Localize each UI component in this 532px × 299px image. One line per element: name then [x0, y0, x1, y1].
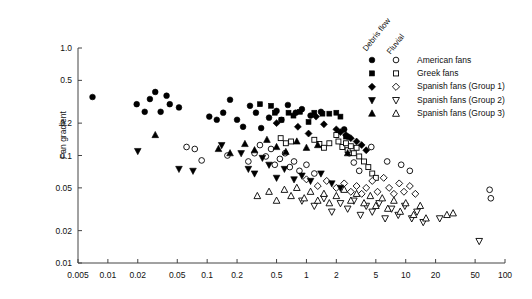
data-point — [326, 200, 333, 206]
data-point — [369, 57, 375, 63]
data-point — [333, 192, 340, 198]
data-point — [245, 166, 252, 172]
data-point — [392, 83, 399, 90]
data-point — [184, 144, 190, 150]
data-point — [348, 144, 353, 149]
axis-lines — [78, 48, 505, 263]
y-axis-title: Fan gradient — [58, 90, 68, 180]
data-point — [369, 98, 376, 104]
axis-ticks — [78, 48, 505, 263]
data-point — [368, 144, 374, 150]
data-point — [356, 168, 362, 174]
legend-item-label[interactable]: Spanish fans (Group 2) — [417, 95, 505, 105]
legend-marker-fluvial-3 — [393, 98, 400, 104]
data-point — [291, 159, 297, 165]
data-point — [305, 130, 312, 137]
legend-item-label[interactable]: Spanish fans (Group 3) — [417, 108, 505, 118]
data-point — [266, 115, 272, 121]
data-point — [314, 183, 321, 190]
data-point — [357, 212, 364, 218]
series-spanish-fans-group-1--fluvial — [303, 174, 419, 197]
data-point — [393, 71, 398, 76]
data-point — [272, 110, 277, 115]
data-point — [164, 93, 170, 99]
data-point — [363, 184, 370, 191]
data-point — [320, 121, 327, 128]
data-point — [311, 203, 318, 209]
data-point — [368, 83, 375, 90]
data-point — [258, 125, 264, 131]
legend-item-label[interactable]: American fans — [417, 55, 471, 65]
data-point — [344, 206, 351, 212]
data-point — [279, 117, 284, 122]
data-point — [190, 168, 197, 174]
data-point — [234, 117, 240, 123]
data-point — [396, 180, 403, 187]
data-point — [142, 109, 148, 115]
x-tick-label: 2 — [334, 270, 339, 280]
data-point — [407, 168, 413, 174]
x-tick-label: 0.05 — [169, 270, 186, 280]
data-point — [240, 124, 246, 130]
data-point — [444, 211, 451, 217]
data-point — [253, 110, 259, 116]
y-tick-label: 0.01 — [36, 258, 72, 268]
legend-marker-fluvial-2 — [392, 83, 399, 90]
data-point — [167, 101, 173, 107]
x-tick-label: 1 — [304, 270, 309, 280]
data-point — [176, 105, 182, 111]
data-point — [147, 96, 153, 102]
x-tick-label: 20 — [431, 270, 440, 280]
data-point — [328, 209, 335, 215]
legend-item-label[interactable]: Greek fans — [417, 68, 459, 78]
data-point — [320, 111, 325, 116]
data-point — [369, 209, 376, 215]
data-point — [343, 141, 348, 146]
data-point — [393, 98, 400, 104]
data-point — [289, 139, 294, 144]
data-point — [369, 110, 376, 116]
y-tick-label: 1.0 — [36, 43, 72, 53]
data-point — [304, 162, 310, 168]
data-point — [303, 144, 310, 150]
legend-marker-debris-1 — [369, 71, 374, 76]
data-point — [423, 215, 430, 221]
data-point — [251, 171, 258, 177]
data-point — [214, 117, 220, 123]
data-point — [246, 159, 252, 165]
data-point — [306, 120, 311, 125]
data-point — [158, 109, 164, 115]
series-american-fans-debris-flow — [90, 89, 351, 139]
series-spanish-fans-group-2--debris-flow — [134, 142, 343, 191]
data-point — [312, 137, 317, 142]
data-point — [281, 166, 288, 172]
y-tick-label: 0.5 — [36, 75, 72, 85]
data-point — [369, 71, 374, 76]
x-tick-label: 5 — [373, 270, 378, 280]
data-point — [257, 142, 263, 148]
series-greek-fans-fluvial — [278, 133, 378, 181]
y-tick-label: 0.1 — [36, 151, 72, 161]
data-point — [288, 192, 295, 198]
fan-gradient-scatter-chart — [0, 0, 532, 299]
data-point — [436, 216, 443, 222]
x-tick-label: 0.5 — [271, 270, 283, 280]
data-point — [134, 148, 141, 154]
data-point — [347, 188, 354, 195]
data-point — [393, 57, 399, 63]
data-point — [90, 94, 96, 100]
data-point — [254, 192, 261, 198]
data-point — [362, 159, 367, 164]
data-point — [476, 238, 483, 244]
data-point — [227, 97, 233, 103]
data-point — [152, 131, 159, 137]
data-point — [272, 162, 278, 168]
legend-marker-fluvial-0 — [393, 57, 399, 63]
x-tick-label: 0.02 — [129, 270, 146, 280]
data-point — [311, 171, 317, 177]
data-point — [336, 139, 341, 144]
data-point — [293, 138, 300, 144]
data-point — [192, 146, 198, 152]
data-point — [273, 175, 280, 181]
legend-item-label[interactable]: Spanish fans (Group 1) — [417, 81, 505, 91]
